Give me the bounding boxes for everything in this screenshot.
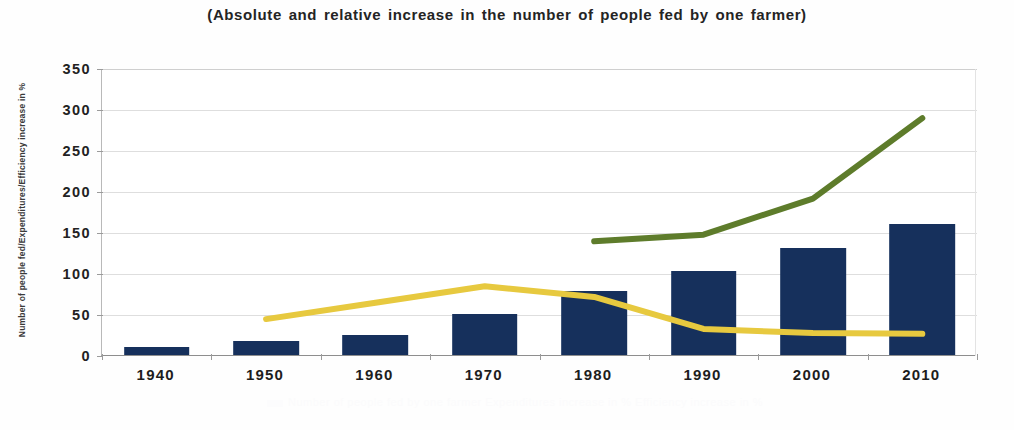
y-axis-tick xyxy=(97,110,103,111)
bar xyxy=(671,271,737,355)
x-axis-tick-label: 1970 xyxy=(439,366,529,383)
y-axis-tick xyxy=(97,151,103,152)
y-axis-tick-label: 100 xyxy=(19,266,91,282)
bar xyxy=(124,347,190,355)
y-axis-title: Number of people fed/Expenditures/Effici… xyxy=(17,40,27,380)
x-axis-tick-label: 1980 xyxy=(548,366,638,383)
bar xyxy=(343,335,409,356)
plot-area xyxy=(101,69,976,356)
bar xyxy=(890,224,956,355)
x-axis-tick xyxy=(540,354,541,360)
gridline xyxy=(102,233,977,234)
x-axis-tick-label: 2010 xyxy=(876,366,966,383)
x-axis-tick-label: 2000 xyxy=(767,366,857,383)
bar xyxy=(452,314,518,355)
x-axis-tick xyxy=(430,354,431,360)
line-series xyxy=(594,118,922,241)
chart-container: (Absolute and relative increase in the n… xyxy=(0,0,1014,430)
legend-text: Number of people fed by one farmer Expen… xyxy=(288,396,763,408)
bar xyxy=(561,291,627,355)
x-axis-tick xyxy=(649,354,650,360)
gridline xyxy=(102,192,977,193)
x-axis-tick xyxy=(211,354,212,360)
line-series-overlay xyxy=(102,69,977,356)
gridline xyxy=(102,151,977,152)
y-axis-tick-label: 200 xyxy=(19,184,91,200)
x-axis-tick-label: 1990 xyxy=(658,366,748,383)
x-axis-tick xyxy=(758,354,759,360)
y-axis-tick xyxy=(97,233,103,234)
bar xyxy=(780,248,846,355)
x-axis-tick xyxy=(868,354,869,360)
y-axis-tick xyxy=(97,192,103,193)
x-axis-tick xyxy=(977,354,978,360)
bar xyxy=(233,341,299,355)
x-axis-tick-label: 1940 xyxy=(111,366,201,383)
y-axis-tick-label: 0 xyxy=(19,348,91,364)
gridline xyxy=(102,274,977,275)
y-axis-tick-label: 300 xyxy=(19,102,91,118)
gridline xyxy=(102,69,977,70)
x-axis-tick-label: 1950 xyxy=(220,366,310,383)
legend: Number of people fed by one farmer Expen… xyxy=(0,396,1014,422)
y-axis-tick xyxy=(97,315,103,316)
plot-right-edge xyxy=(975,69,976,356)
x-axis-tick xyxy=(321,354,322,360)
y-axis-tick-label: 50 xyxy=(19,307,91,323)
chart-title: (Absolute and relative increase in the n… xyxy=(0,6,1014,23)
gridline xyxy=(102,315,977,316)
x-axis-tick-label: 1960 xyxy=(329,366,419,383)
gridline xyxy=(102,110,977,111)
x-axis-tick xyxy=(102,354,103,360)
y-axis-tick-label: 250 xyxy=(19,143,91,159)
y-axis-tick xyxy=(97,69,103,70)
y-axis-tick xyxy=(97,274,103,275)
y-axis-tick-label: 350 xyxy=(19,61,91,77)
y-axis-tick-label: 150 xyxy=(19,225,91,241)
legend-swatch-bars xyxy=(267,400,283,407)
